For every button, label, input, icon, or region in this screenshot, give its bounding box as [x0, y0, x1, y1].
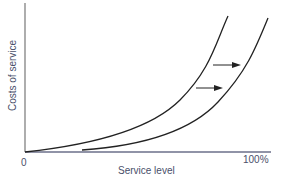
x-axis-label: Service level — [118, 165, 175, 176]
curve-original — [25, 16, 228, 152]
x-max-label: 100% — [243, 154, 269, 165]
shift-arrow-upper — [213, 62, 241, 68]
shift-arrow-lower — [196, 85, 223, 91]
curve-shifted — [82, 18, 268, 150]
x-origin-label: 0 — [21, 157, 27, 168]
y-axis-label: Costs of service — [7, 36, 18, 116]
chart-canvas — [0, 0, 283, 185]
